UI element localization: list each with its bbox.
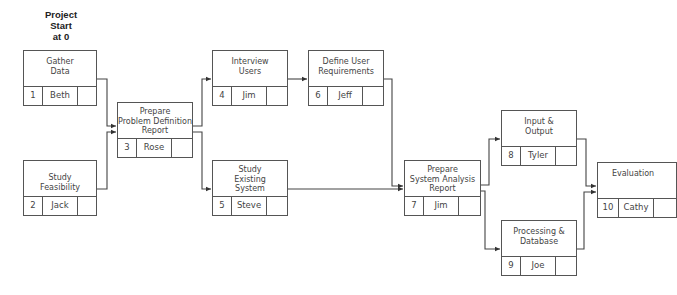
task-duration bbox=[78, 87, 96, 105]
task-duration bbox=[363, 87, 383, 105]
task-node-8[interactable]: Input & Output 8 Tyler bbox=[501, 110, 577, 166]
task-node-9[interactable]: Processing & Database 9 Joe bbox=[501, 220, 577, 276]
task-id: 5 bbox=[213, 197, 232, 215]
task-title: Study Existing System bbox=[213, 165, 287, 194]
task-title: Define User Requirements bbox=[309, 57, 383, 76]
task-id: 10 bbox=[598, 199, 619, 217]
task-title: Processing & Database bbox=[502, 227, 576, 246]
task-owner: Rose bbox=[137, 139, 172, 157]
task-owner: Steve bbox=[232, 197, 267, 215]
task-owner: Cathy bbox=[619, 199, 654, 217]
task-node-7[interactable]: Prepare System Analysis Report 7 Jim bbox=[404, 160, 481, 216]
task-title: Gather Data bbox=[24, 57, 96, 76]
task-duration bbox=[78, 197, 96, 215]
task-node-4[interactable]: Interview Users 4 Jim bbox=[212, 50, 288, 106]
task-title: Input & Output bbox=[502, 117, 576, 136]
task-id: 8 bbox=[502, 147, 521, 165]
task-id: 1 bbox=[24, 87, 43, 105]
task-node-5[interactable]: Study Existing System 5 Steve bbox=[212, 160, 288, 216]
task-node-3[interactable]: Prepare Problem Definition Report 3 Rose bbox=[117, 102, 193, 158]
task-node-6[interactable]: Define User Requirements 6 Jeff bbox=[308, 50, 384, 106]
task-id: 7 bbox=[405, 197, 424, 215]
task-duration bbox=[459, 197, 480, 215]
task-id: 3 bbox=[118, 139, 137, 157]
task-owner: Beth bbox=[43, 87, 78, 105]
task-duration bbox=[556, 257, 576, 275]
task-owner: Jim bbox=[424, 197, 459, 215]
task-id: 2 bbox=[24, 197, 43, 215]
task-title: Study Feasibility bbox=[24, 173, 96, 192]
task-title: Evaluation bbox=[598, 169, 668, 179]
task-title: Interview Users bbox=[213, 57, 287, 76]
task-id: 9 bbox=[502, 257, 521, 275]
task-title: Prepare System Analysis Report bbox=[405, 165, 480, 194]
task-duration bbox=[172, 139, 192, 157]
task-duration bbox=[267, 197, 287, 215]
task-duration bbox=[654, 199, 676, 217]
task-owner: Jeff bbox=[328, 87, 363, 105]
task-id: 6 bbox=[309, 87, 328, 105]
task-owner: Jack bbox=[43, 197, 78, 215]
task-owner: Jim bbox=[232, 87, 267, 105]
task-duration bbox=[556, 147, 576, 165]
task-title: Prepare Problem Definition Report bbox=[118, 107, 192, 136]
task-id: 4 bbox=[213, 87, 232, 105]
task-node-1[interactable]: Gather Data 1 Beth bbox=[23, 50, 97, 106]
task-owner: Tyler bbox=[521, 147, 556, 165]
task-owner: Joe bbox=[521, 257, 556, 275]
task-node-10[interactable]: Evaluation 10 Cathy bbox=[597, 162, 677, 218]
task-duration bbox=[267, 87, 287, 105]
task-node-2[interactable]: Study Feasibility 2 Jack bbox=[23, 160, 97, 216]
